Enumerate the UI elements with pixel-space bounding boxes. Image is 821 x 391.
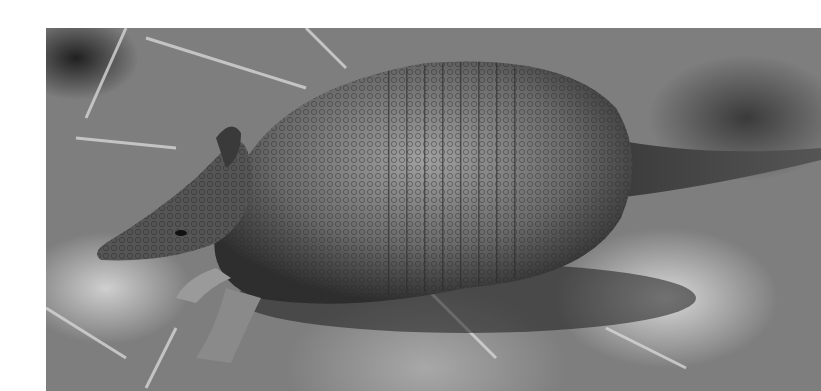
armadillo-photo <box>46 28 821 391</box>
armadillo-illustration <box>46 28 821 391</box>
